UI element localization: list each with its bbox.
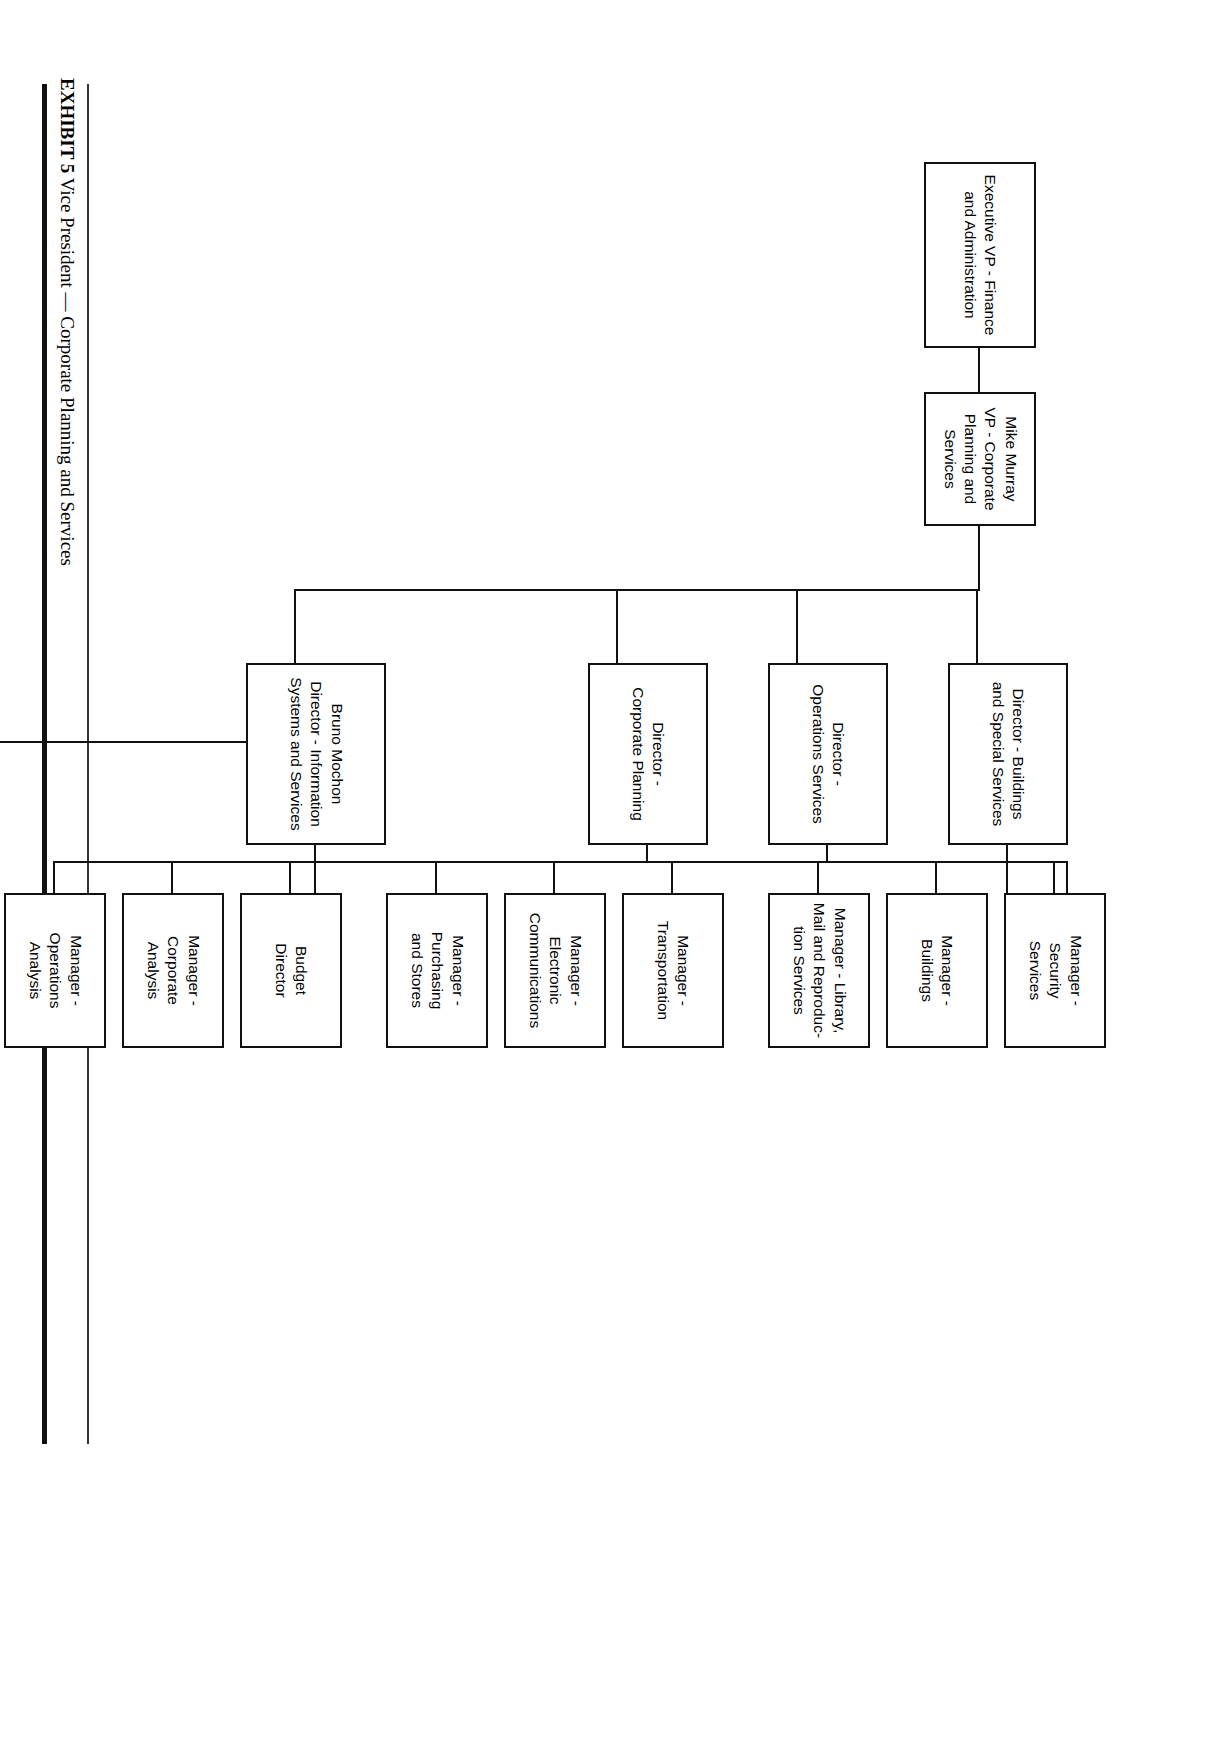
connector-bus-dir-buildings <box>976 589 978 663</box>
org-chart: Executive VP - Financeand Administration… <box>328 70 1128 1470</box>
connector-bus-dir-planning <box>616 589 618 663</box>
node-director-operations-label: Director -Operations Services <box>808 684 849 824</box>
node-bld3-label: Manager - Library,Mail and Reproduc-tion… <box>788 903 849 1038</box>
exhibit-caption: EXHIBIT 5 Vice President — Corporate Pla… <box>54 78 80 978</box>
connector-dir-spine-2 <box>55 861 648 863</box>
connector-child-2-1 <box>171 861 173 893</box>
node-budget-director[interactable]: BudgetDirector <box>240 893 342 1048</box>
node-manager-buildings[interactable]: Manager -Buildings <box>886 893 988 1048</box>
node-director-operations[interactable]: Director -Operations Services <box>768 663 888 845</box>
node-plan1-label: BudgetDirector <box>271 943 312 997</box>
node-manager-library-mail[interactable]: Manager - Library,Mail and Reproduc-tion… <box>768 893 870 1048</box>
node-manager-transportation[interactable]: Manager -Transportation <box>622 893 724 1048</box>
exhibit-number: EXHIBIT 5 <box>57 78 78 173</box>
node-bld2-label: Manager -Buildings <box>917 935 958 1006</box>
connector-child-1-1 <box>553 861 555 893</box>
node-bld1-label: Manager -SecurityServices <box>1024 935 1085 1006</box>
connector-child-1-0 <box>671 861 673 893</box>
node-plan3-label: Manager -OperationsAnalysis <box>24 933 85 1009</box>
node-manager-electronic-comms[interactable]: Manager -ElectronicCommunications <box>504 893 606 1048</box>
connector-child-2-0 <box>289 861 291 893</box>
connector-child-1-2 <box>435 861 437 893</box>
page-rule-thick <box>42 84 47 1444</box>
node-director-is-label: Bruno MochonDirector - InformationSystem… <box>285 677 346 830</box>
node-director-buildings-label: Director - Buildingsand Special Services <box>988 682 1029 827</box>
node-manager-operations-analysis[interactable]: Manager -OperationsAnalysis <box>4 893 106 1048</box>
node-director-information-systems[interactable]: Bruno MochonDirector - InformationSystem… <box>246 663 386 845</box>
connector-child-0-2 <box>817 861 819 893</box>
node-manager-purchasing-stores[interactable]: Manager -Purchasingand Stores <box>386 893 488 1048</box>
connector-bus-dir-operations <box>796 589 798 663</box>
connector-dir-stem-1 <box>826 845 828 861</box>
node-plan2-label: Manager -CorporateAnalysis <box>142 935 203 1006</box>
node-director-planning-label: Director -Corporate Planning <box>628 687 669 821</box>
connector-child-0-1 <box>935 861 937 893</box>
node-executive-vp-label: Executive VP - Financeand Administration <box>960 175 1001 336</box>
connector-bld-3 <box>1006 861 1008 893</box>
node-ops3-label: Manager -Purchasingand Stores <box>406 932 467 1010</box>
node-manager-corporate-analysis[interactable]: Manager -CorporateAnalysis <box>122 893 224 1048</box>
node-vp-label: Mike MurrayVP - CorporatePlanning and Se… <box>939 397 1021 521</box>
connector-child-2-2 <box>53 861 55 893</box>
node-executive-vp[interactable]: Executive VP - Financeand Administration <box>924 162 1036 348</box>
node-manager-security-services[interactable]: Manager -SecurityServices <box>1004 893 1106 1048</box>
connector-dir-stem-0 <box>1006 845 1008 861</box>
node-ops2-label: Manager -ElectronicCommunications <box>524 913 585 1028</box>
node-ops1-label: Manager -Transportation <box>653 921 694 1020</box>
connector-dir-stem-2 <box>646 845 648 861</box>
connector-execvp-vp <box>978 348 980 392</box>
node-director-buildings[interactable]: Director - Buildingsand Special Services <box>948 663 1068 845</box>
connector-bus-dir-is <box>294 589 296 663</box>
connector-child-0-0 <box>1053 861 1055 893</box>
node-vp-corporate-planning[interactable]: Mike MurrayVP - CorporatePlanning and Se… <box>924 392 1036 526</box>
page-rule-thin <box>87 84 89 1444</box>
node-director-planning[interactable]: Director -Corporate Planning <box>588 663 708 845</box>
connector-vp-stem <box>978 526 980 590</box>
connector-dir-spine-0 <box>819 861 1055 863</box>
page-title: Vice President — Corporate Planning and … <box>57 178 78 566</box>
connector-bld-1 <box>1066 861 1068 893</box>
connector-directors-bus <box>294 589 980 591</box>
